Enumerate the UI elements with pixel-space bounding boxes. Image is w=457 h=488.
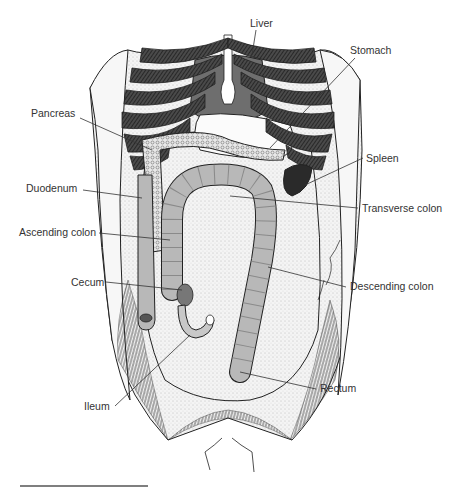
label-spleen: Spleen: [366, 152, 399, 164]
label-rectum: Rectum: [320, 382, 356, 394]
label-cecum: Cecum: [71, 276, 105, 288]
duodenum-shape: [138, 175, 155, 330]
label-ileum: Ileum: [84, 400, 110, 412]
label-duodenum: Duodenum: [26, 182, 78, 194]
cecum-shape: [177, 284, 193, 306]
label-transverse-colon: Transverse colon: [362, 202, 442, 214]
label-pancreas: Pancreas: [31, 107, 75, 119]
label-descending-colon: Descending colon: [350, 280, 434, 292]
anatomy-figure: Liver Stomach Pancreas Spleen Duodenum T…: [0, 0, 457, 488]
label-liver: Liver: [250, 17, 273, 29]
genital-outline: [205, 438, 254, 472]
label-ascending-colon: Ascending colon: [19, 226, 96, 238]
label-stomach: Stomach: [350, 44, 392, 56]
